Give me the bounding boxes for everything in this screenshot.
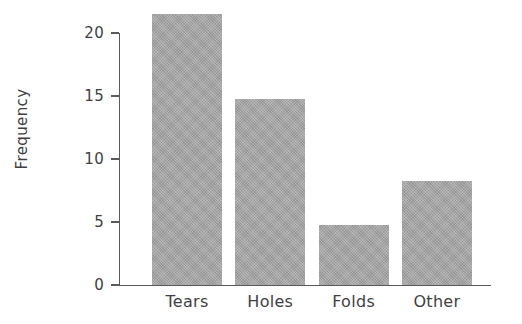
x-tick-label-tears: Tears bbox=[142, 292, 232, 311]
bar-other bbox=[402, 181, 472, 285]
y-axis-line bbox=[119, 33, 120, 286]
y-tick-mark bbox=[111, 95, 119, 96]
y-tick-mark bbox=[111, 284, 119, 285]
y-tick-mark bbox=[111, 158, 119, 159]
bar-folds bbox=[319, 225, 389, 285]
x-tick-label-holes: Holes bbox=[225, 292, 315, 311]
bar-tears bbox=[152, 14, 222, 285]
x-tick-label-folds: Folds bbox=[309, 292, 399, 311]
y-tick-label: 20 bbox=[60, 24, 104, 42]
y-tick-label: 5 bbox=[60, 213, 104, 231]
y-axis-title: Frequency bbox=[13, 69, 31, 189]
bar-chart: 05101520 TearsHolesFoldsOther Frequency bbox=[0, 0, 522, 324]
x-tick-label-other: Other bbox=[392, 292, 482, 311]
y-tick-mark bbox=[111, 32, 119, 33]
bar-holes bbox=[235, 99, 305, 285]
y-tick-label: 0 bbox=[60, 276, 104, 294]
y-tick-label: 15 bbox=[60, 87, 104, 105]
x-axis-line bbox=[119, 285, 491, 286]
y-tick-label: 10 bbox=[60, 150, 104, 168]
y-tick-mark bbox=[111, 221, 119, 222]
plot-area: 05101520 TearsHolesFoldsOther bbox=[0, 0, 522, 324]
